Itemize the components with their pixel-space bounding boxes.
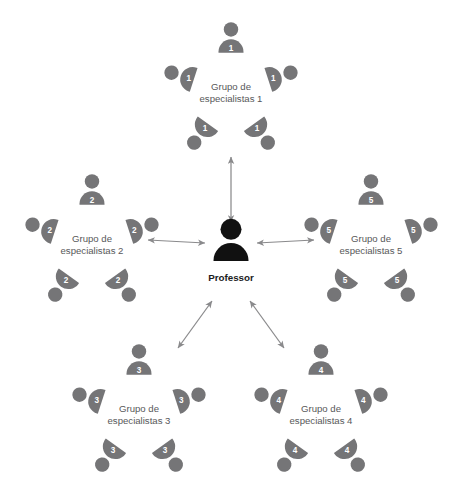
specialist-number-label: 5 [343,276,348,285]
specialist-number-label: 5 [327,226,332,235]
specialist-group[interactable]: 22222Grupo deespecialistas 2 [22,174,162,308]
specialist-number-label: 1 [229,44,234,53]
specialist-number-label: 5 [395,276,400,285]
group-label-line-2: especialistas 2 [61,245,124,256]
specialist-number-label: 3 [163,446,168,455]
specialist-number-label: 5 [369,196,374,205]
specialist-number-label: 3 [95,396,100,405]
specialist-person-icon [152,438,190,477]
specialist-number-label: 4 [361,396,366,405]
specialist-person-icon [384,268,422,307]
specialist-number-label: 4 [293,446,298,455]
professor-label: Professor [208,272,254,283]
specialist-number-label: 2 [132,226,137,235]
specialist-number-label: 1 [271,74,276,83]
group-label-line-1: Grupo de [119,403,159,414]
professor-person-icon [214,219,249,261]
arrow-center-group-2 [148,240,205,243]
specialist-person-icon [105,268,143,307]
specialist-number-label: 3 [179,396,184,405]
group-label-line-1: Grupo de [72,233,112,244]
specialist-person-icon [270,438,308,477]
group-label-line-2: especialistas 4 [290,415,354,426]
specialist-number-label: 2 [90,196,95,205]
arrow-center-group-4 [250,301,284,348]
group-label-line-1: Grupo de [351,233,391,244]
center-professor-node: Professor [208,219,254,283]
group-label-line-1: Grupo de [211,81,251,92]
specialist-person-icon [161,59,198,92]
diagram-canvas: 11111Grupo deespecialistas 122222Grupo d… [0,0,452,498]
specialist-group[interactable]: 55555Grupo deespecialistas 5 [301,174,441,308]
specialist-number-label: 3 [111,446,116,455]
specialist-person-icon [301,211,338,244]
specialist-number-label: 1 [187,74,192,83]
specialist-person-icon [180,116,218,155]
group-label-line-1: Grupo de [301,403,341,414]
specialist-person-icon [334,438,372,477]
specialist-number-label: 2 [64,276,69,285]
specialist-number-label: 4 [277,396,282,405]
collaborative-learning-diagram: 11111Grupo deespecialistas 122222Grupo d… [0,0,452,498]
group-label-line-2: especialistas 3 [108,415,171,426]
specialist-number-label: 1 [255,124,260,133]
specialist-group[interactable]: 11111Grupo deespecialistas 1 [161,22,301,156]
group-label-line-2: especialistas 5 [340,245,403,256]
specialist-person-icon [320,268,358,307]
specialist-number-label: 1 [203,124,208,133]
specialist-number-label: 3 [137,366,142,375]
specialist-person-icon [251,381,288,414]
specialist-number-label: 5 [411,226,416,235]
specialist-group[interactable]: 33333Grupo deespecialistas 3 [69,344,209,478]
specialist-person-icon [244,116,282,155]
arrow-center-group-5 [257,240,314,243]
specialist-person-icon [88,438,126,477]
specialist-person-icon [41,268,79,307]
specialist-number-label: 2 [116,276,121,285]
specialist-number-label: 4 [345,446,350,455]
arrow-center-group-3 [178,301,212,348]
specialist-number-label: 4 [319,366,324,375]
specialist-person-icon [22,211,59,244]
group-label-line-2: especialistas 1 [200,93,263,104]
specialist-group[interactable]: 44444Grupo deespecialistas 4 [251,344,391,478]
specialist-person-icon [69,381,106,414]
specialist-number-label: 2 [48,226,53,235]
